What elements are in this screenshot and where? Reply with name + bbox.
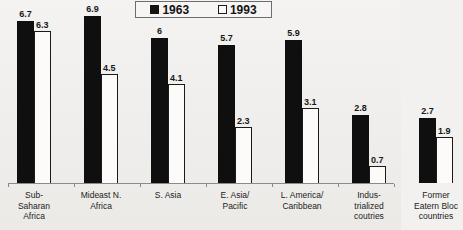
bar-1993-1	[101, 74, 118, 183]
category-label-4: L. America/ Caribbean	[269, 190, 335, 211]
category-label-2: S. Asia	[135, 190, 201, 201]
bar-value-label: 2.3	[237, 117, 250, 126]
x-axis-tick	[8, 184, 9, 187]
category-label-0: Sub- Saharan Africa	[1, 190, 67, 222]
bar-1963-5	[352, 115, 369, 183]
bar-1963-6	[419, 118, 436, 183]
bar-value-label: 1.9	[438, 127, 451, 136]
bar-value-label: 6.7	[15, 10, 36, 19]
x-axis-tick	[74, 184, 75, 187]
bar-value-label: 0.7	[371, 156, 384, 165]
bar-value-label: 6.9	[82, 5, 103, 14]
plot-area: 6.76.36.94.564.15.72.35.93.12.80.72.71.9	[0, 0, 401, 184]
x-axis-tick	[338, 184, 339, 187]
bar-value-label: 4.5	[103, 64, 116, 73]
bar-value-label: 3.1	[304, 98, 317, 107]
x-axis-category-labels: Sub- Saharan AfricaMideast N. AfricaS. A…	[0, 190, 401, 230]
bar-value-label: 4.1	[170, 74, 183, 83]
bar-1993-4	[302, 108, 319, 183]
bar-value-label: 5.7	[216, 34, 237, 43]
x-axis-tick	[394, 184, 395, 187]
bar-value-label: 5.9	[283, 29, 304, 38]
category-label-5: Indus- trialized coutries	[336, 190, 402, 222]
bar-value-label: 6	[149, 27, 170, 36]
bar-1993-2	[168, 84, 185, 183]
category-label-6: Former Eatern Bloc countries	[403, 190, 463, 222]
category-label-1: Mideast N. Africa	[68, 190, 134, 211]
bar-1993-6	[436, 137, 453, 183]
bar-1963-1	[84, 16, 101, 183]
bar-value-label: 6.3	[36, 21, 49, 30]
x-axis-line	[8, 183, 394, 184]
x-axis-tick	[272, 184, 273, 187]
x-axis-tick	[206, 184, 207, 187]
x-axis-tick	[140, 184, 141, 187]
bar-1993-0	[34, 31, 51, 183]
bar-1963-0	[17, 21, 34, 183]
bar-1963-3	[218, 45, 235, 183]
bar-value-label: 2.7	[417, 107, 438, 116]
category-label-3: E. Asia/ Pacific	[202, 190, 268, 211]
bar-value-label: 2.8	[350, 104, 371, 113]
bar-1963-4	[285, 40, 302, 183]
bar-1963-2	[151, 38, 168, 183]
bar-1993-3	[235, 127, 252, 183]
bar-1993-5	[369, 166, 386, 183]
